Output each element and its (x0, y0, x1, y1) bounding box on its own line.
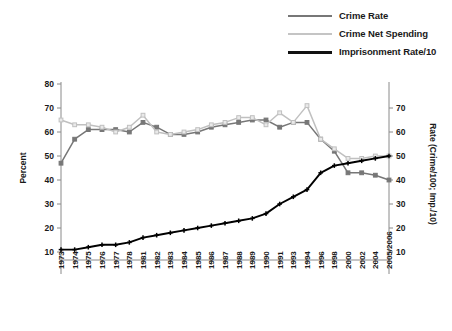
x-axis-tick-label: 2002 (358, 251, 367, 269)
x-axis-tick-label: 1989 (248, 251, 257, 269)
x-axis-tick-label: 1994 (303, 251, 312, 269)
series-marker-2 (168, 231, 173, 236)
series-marker-2 (127, 240, 132, 245)
x-axis-tick-label: 1982 (153, 251, 162, 269)
series-marker-1 (127, 125, 131, 129)
x-axis-tick-label: 1988 (235, 251, 244, 269)
legend-swatch-imprisonment-rate (288, 51, 332, 54)
x-axis-tick-label: 2000 (344, 251, 353, 269)
legend-swatch-crime-rate (288, 15, 332, 17)
series-marker-1 (100, 125, 104, 129)
x-axis-tick-label: 2005/2006 (385, 231, 394, 269)
y2-axis-tick-label: 60 (396, 127, 406, 137)
series-line-2 (61, 156, 389, 250)
y2-axis-title: Rate (Crime/100; Imp./10) (428, 123, 438, 225)
y-axis-tick-label: 10 (45, 247, 55, 257)
x-axis-tick-label: 1976 (98, 251, 107, 269)
x-axis-tick-label: 1998 (330, 251, 339, 269)
series-marker-2 (195, 226, 200, 231)
series-marker-0 (155, 125, 159, 129)
series-marker-2 (86, 245, 91, 250)
series-marker-1 (250, 116, 254, 120)
series-marker-1 (278, 111, 282, 115)
series-marker-2 (113, 243, 118, 248)
series-line-0 (61, 120, 389, 180)
y-axis-title: Percent (18, 152, 28, 183)
legend-label-imprisonment-rate: Imprisonment Rate/10 (339, 47, 436, 57)
series-marker-0 (59, 161, 63, 165)
series-marker-1 (319, 137, 323, 141)
series-marker-0 (73, 137, 77, 141)
x-axis-tick-label: 1975 (84, 251, 93, 269)
legend-item-crime-net-spending: Crime Net Spending (288, 26, 448, 42)
legend-label-crime-rate: Crime Rate (339, 11, 388, 21)
x-axis-tick-label: 1986 (207, 251, 216, 269)
x-axis-tick-label: 1987 (221, 251, 230, 269)
series-marker-0 (264, 118, 268, 122)
x-axis-tick-label: 2004 (371, 251, 380, 269)
series-marker-0 (237, 121, 241, 125)
series-marker-2 (100, 243, 105, 248)
x-axis-tick-label: 1984 (180, 251, 189, 269)
y-axis-tick-label: 50 (45, 151, 55, 161)
series-marker-1 (73, 123, 77, 127)
series-marker-1 (155, 130, 159, 134)
y2-axis-tick-label: 30 (396, 199, 406, 209)
x-axis-tick-label: 1993 (289, 251, 298, 269)
series-marker-1 (59, 118, 63, 122)
x-axis-tick-label: 1973 (57, 251, 66, 269)
series-marker-2 (346, 161, 351, 166)
series-marker-2 (223, 221, 228, 226)
y2-axis-tick-label: 70 (396, 103, 406, 113)
series-marker-1 (141, 113, 145, 117)
chart-legend: Crime Rate Crime Net Spending Imprisonme… (288, 8, 448, 62)
legend-item-crime-rate: Crime Rate (288, 8, 448, 24)
series-marker-1 (86, 123, 90, 127)
series-marker-1 (305, 104, 309, 108)
y2-axis-tick-label: 20 (396, 223, 406, 233)
series-marker-1 (182, 130, 186, 134)
series-marker-1 (237, 116, 241, 120)
series-marker-2 (236, 219, 241, 224)
series-marker-1 (196, 128, 200, 132)
series-marker-0 (127, 130, 131, 134)
y-axis-tick-label: 70 (45, 103, 55, 113)
series-marker-1 (209, 123, 213, 127)
series-marker-2 (141, 235, 146, 240)
series-marker-1 (346, 157, 350, 161)
x-axis-tick-label: 1974 (71, 251, 80, 269)
x-axis-tick-label: 1996 (317, 251, 326, 269)
series-marker-0 (346, 171, 350, 175)
series-marker-0 (86, 128, 90, 132)
series-marker-2 (182, 228, 187, 233)
chart-container: Crime Rate Crime Net Spending Imprisonme… (0, 0, 452, 331)
series-marker-0 (278, 125, 282, 129)
series-marker-0 (360, 171, 364, 175)
x-axis-tick-label: 1978 (125, 251, 134, 269)
series-marker-2 (154, 233, 159, 238)
y-axis-tick-label: 80 (45, 79, 55, 89)
series-marker-1 (264, 123, 268, 127)
y-axis-tick-label: 20 (45, 223, 55, 233)
x-axis-tick-label: 1990 (262, 251, 271, 269)
x-axis-tick-label: 1977 (112, 251, 121, 269)
series-marker-2 (209, 223, 214, 228)
series-marker-0 (387, 178, 391, 182)
series-marker-1 (223, 121, 227, 125)
y2-axis-tick-label: 10 (396, 247, 406, 257)
series-marker-1 (291, 121, 295, 125)
y-axis-tick-label: 40 (45, 175, 55, 185)
y2-axis-tick-label: 40 (396, 175, 406, 185)
x-axis-tick-label: 1983 (166, 251, 175, 269)
legend-item-imprisonment-rate: Imprisonment Rate/10 (288, 44, 448, 60)
x-axis-tick-label: 1991 (276, 251, 285, 269)
y-axis-tick-label: 30 (45, 199, 55, 209)
x-axis-tick-label: 1985 (194, 251, 203, 269)
x-axis-tick-label: 1981 (139, 251, 148, 269)
legend-label-crime-net-spending: Crime Net Spending (339, 29, 428, 39)
series-marker-2 (250, 216, 255, 221)
series-marker-0 (305, 121, 309, 125)
series-line-1 (61, 106, 389, 159)
series-marker-0 (373, 173, 377, 177)
legend-swatch-crime-net-spending (288, 33, 332, 35)
